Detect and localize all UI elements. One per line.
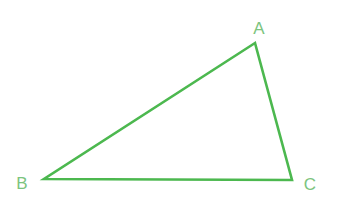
- triangle-diagram: A B C: [0, 0, 341, 206]
- triangle-abc: [44, 43, 292, 180]
- vertex-label-a: A: [253, 19, 265, 38]
- vertex-label-c: C: [304, 175, 316, 194]
- triangle-svg: A B C: [0, 0, 341, 206]
- vertex-label-b: B: [16, 174, 27, 193]
